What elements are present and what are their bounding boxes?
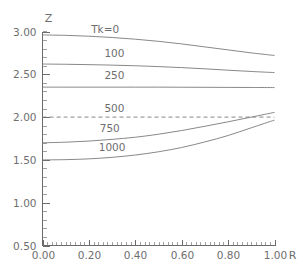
x-axis-label: R [289,249,297,262]
x-tick-label: 0.80 [217,249,240,261]
curve-label-500: 500 [104,102,124,114]
curve-label-1000: 1000 [99,141,126,153]
chart-figure: 0.000.200.400.600.801.00 0.501.001.502.0… [0,0,303,272]
curves-group [43,35,275,160]
curve-label-750: 750 [100,122,120,134]
y-tick-label: 1.50 [13,154,36,166]
x-tick-label: 0.60 [171,249,194,261]
line-chart-plot: 0.000.200.400.600.801.00 0.501.001.502.0… [0,0,303,272]
x-tick-label: 1.00 [264,249,287,261]
y-axis-label: Z [45,12,53,25]
curve-label-250: 250 [104,69,124,81]
curve-label-100: 100 [104,47,124,59]
y-tick-label: 1.00 [13,197,36,209]
y-tick-label: 3.00 [13,26,36,38]
y-tick-label: 2.00 [13,111,36,123]
curve-1000 [43,120,275,160]
curve-label-tk-0: Tk=0 [90,23,119,35]
faint-cut-off-title [0,0,303,9]
axis-labels-group: ZR [45,12,297,262]
curve-tk-0 [43,35,275,56]
axes-group [43,32,275,246]
x-tick-label: 0.40 [124,249,147,261]
y-tick-label: 2.50 [13,68,36,80]
curve-100 [43,64,275,73]
x-tick-label: 0.20 [78,249,101,261]
y-tick-labels-group: 0.501.001.502.002.503.00 [13,26,36,252]
y-tick-label: 0.50 [13,240,36,252]
x-tick-labels-group: 0.000.200.400.600.801.00 [32,249,287,261]
minor-ticks-group [43,32,276,247]
axis-spines [43,32,275,246]
curve-labels-group: Tk=0Tk=010010025025050050075075010001000 [90,23,125,153]
